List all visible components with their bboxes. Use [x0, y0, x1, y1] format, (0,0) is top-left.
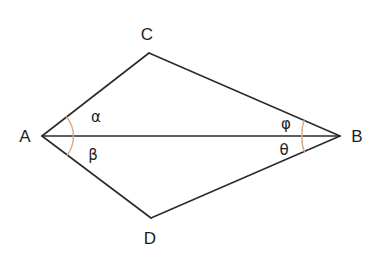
vertex-label-a: A [19, 127, 31, 146]
angle-label-alpha: α [91, 108, 101, 126]
angle-label-phi: φ [281, 115, 291, 133]
angle-arc-phi [302, 120, 304, 136]
edge-c-to-b [149, 53, 340, 136]
angle-arc-beta [67, 136, 74, 155]
vertex-label-c: C [141, 25, 153, 44]
vertex-label-d: D [144, 229, 156, 248]
kite-diagram: A B C D α β φ θ [0, 0, 378, 259]
angle-label-beta: β [88, 146, 98, 164]
angle-label-theta: θ [279, 141, 288, 159]
angle-arc-theta [302, 136, 304, 152]
angle-arc-alpha [67, 117, 74, 136]
edge-b-to-d [151, 136, 340, 218]
vertex-label-b: B [351, 127, 362, 146]
